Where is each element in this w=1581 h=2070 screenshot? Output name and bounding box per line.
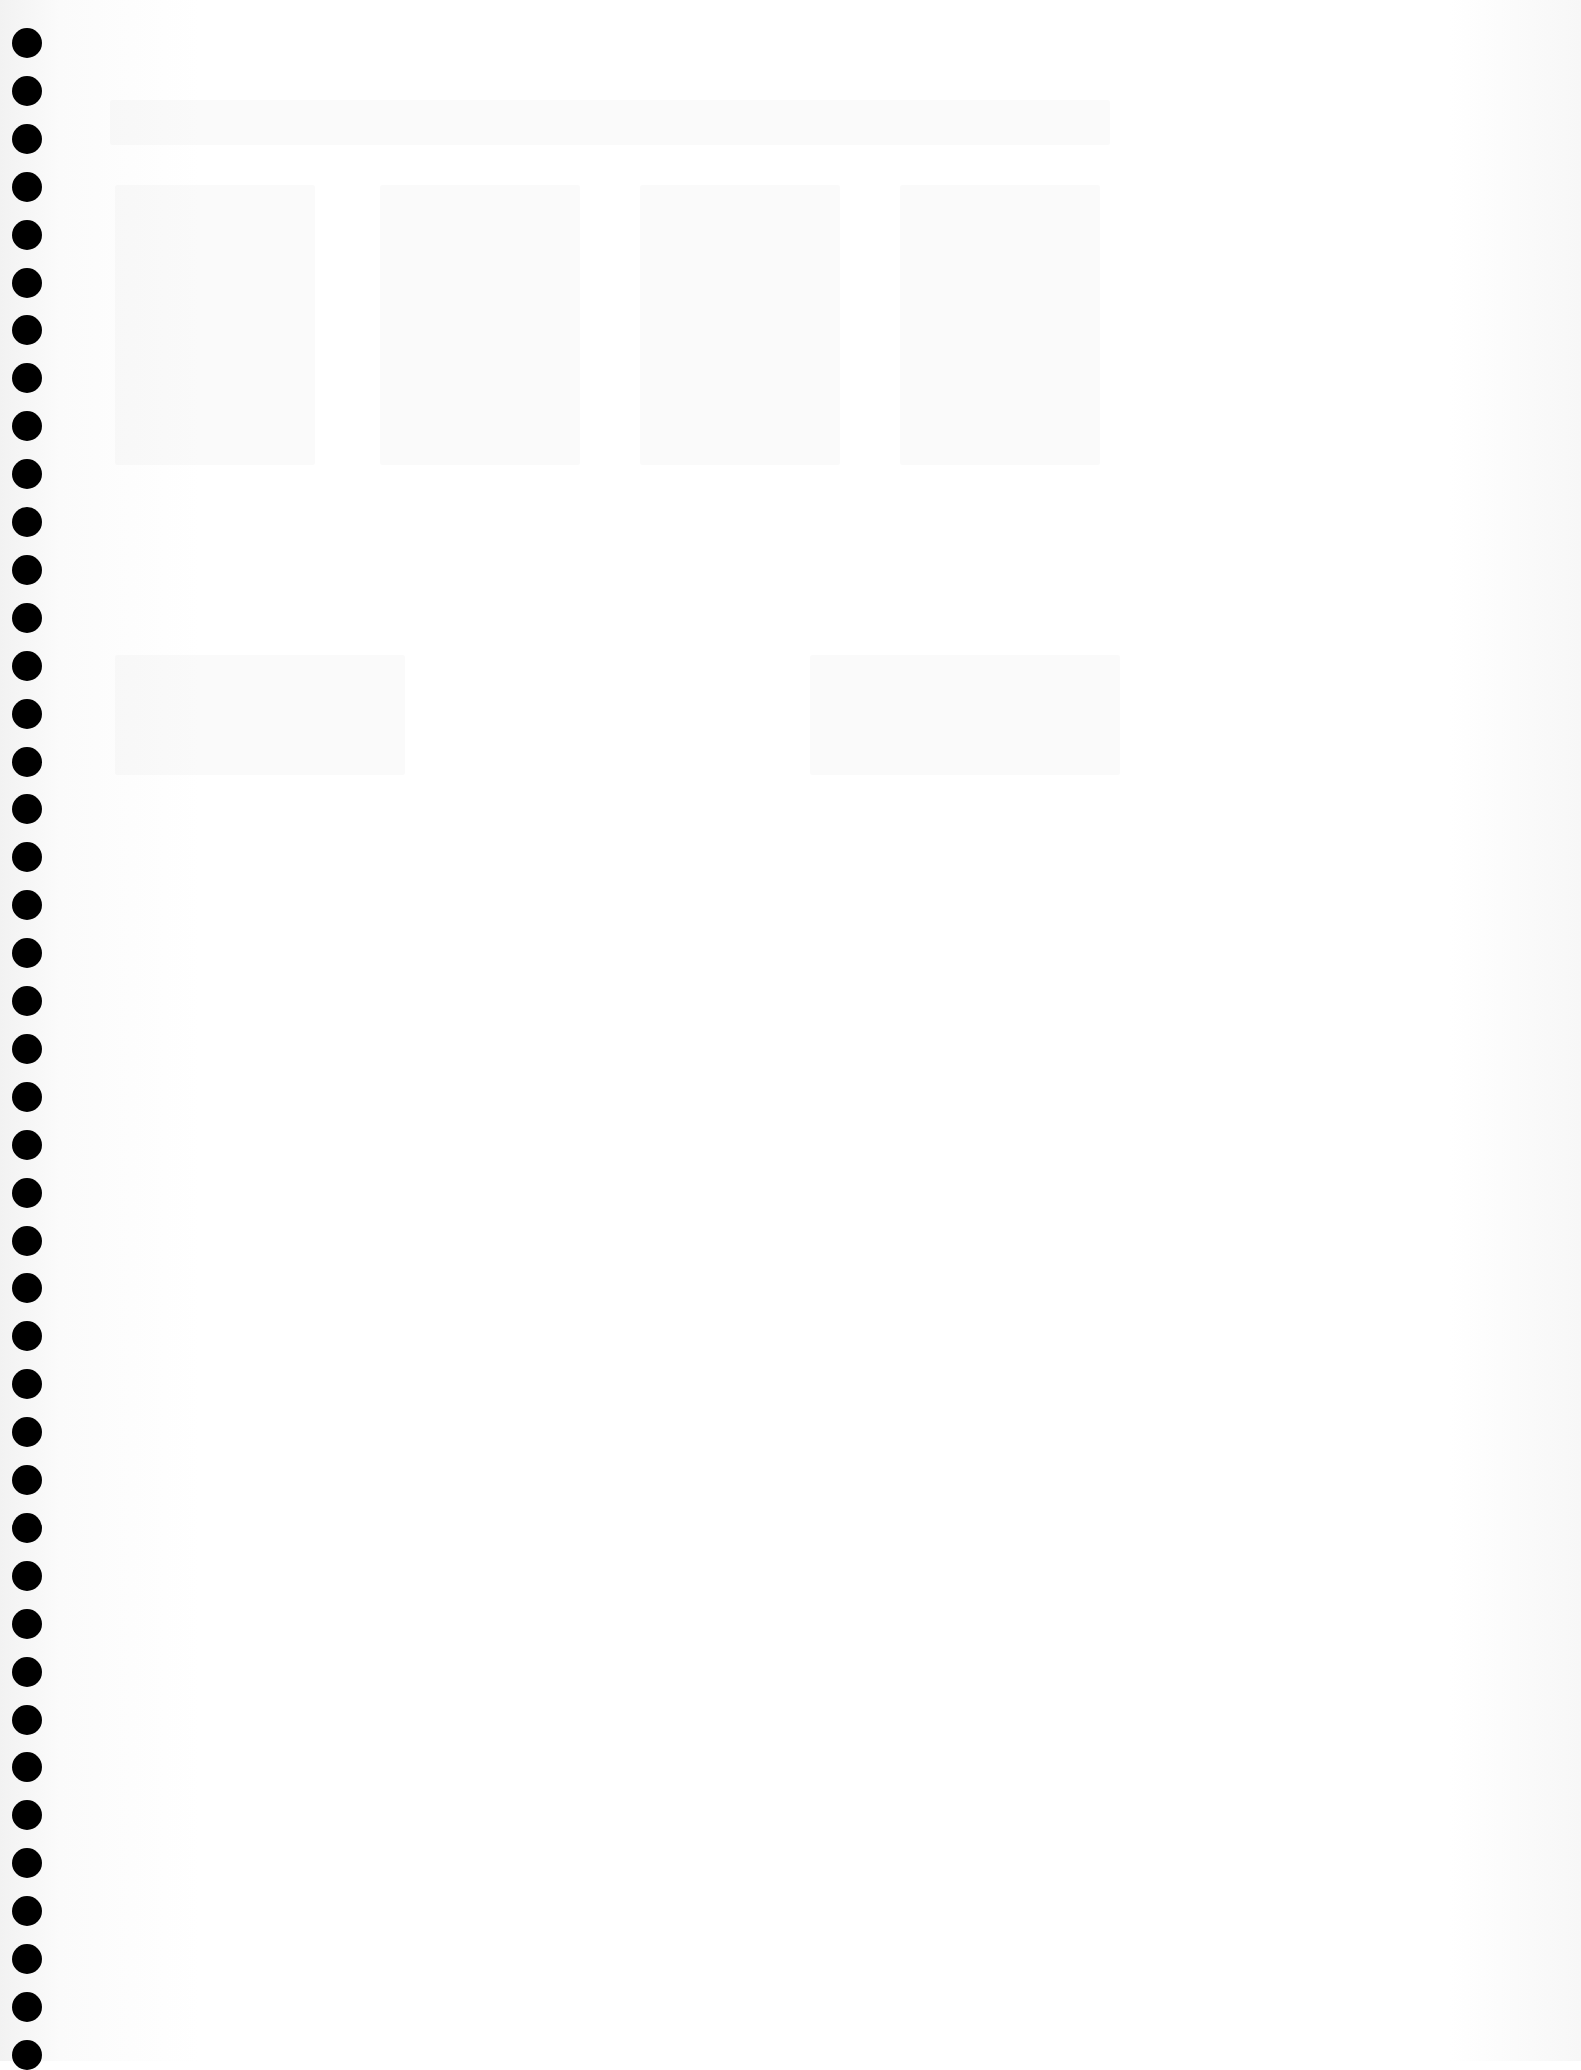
binding-hole bbox=[12, 1465, 42, 1495]
binding-hole bbox=[12, 220, 42, 250]
binding-hole bbox=[12, 172, 42, 202]
binding-hole bbox=[12, 1321, 42, 1351]
bleed-through-text bbox=[900, 185, 1100, 465]
binding-hole bbox=[12, 1705, 42, 1735]
binding-hole bbox=[12, 890, 42, 920]
bleed-through-text bbox=[110, 100, 1110, 145]
binding-hole bbox=[12, 1561, 42, 1591]
bleed-through-text bbox=[380, 185, 580, 465]
binding-hole bbox=[12, 363, 42, 393]
binding-hole bbox=[12, 651, 42, 681]
binding-hole bbox=[12, 1130, 42, 1160]
binding-hole bbox=[12, 747, 42, 777]
bleed-through-text bbox=[810, 655, 1120, 775]
binding-hole bbox=[12, 1800, 42, 1830]
binding-hole bbox=[12, 603, 42, 633]
binding-hole bbox=[12, 1848, 42, 1878]
binding-hole bbox=[12, 986, 42, 1016]
binding-hole bbox=[12, 411, 42, 441]
binding-hole bbox=[12, 28, 42, 58]
binding-hole bbox=[12, 1992, 42, 2022]
binding-hole bbox=[12, 938, 42, 968]
binding-hole bbox=[12, 1752, 42, 1782]
binding-hole bbox=[12, 1082, 42, 1112]
binding-hole bbox=[12, 1273, 42, 1303]
binding-hole bbox=[12, 1226, 42, 1256]
binding-hole bbox=[12, 1034, 42, 1064]
binding-hole bbox=[12, 507, 42, 537]
binding-hole bbox=[12, 76, 42, 106]
spiral-binding bbox=[0, 0, 60, 2061]
binding-hole bbox=[12, 315, 42, 345]
bleed-through-text bbox=[115, 185, 315, 465]
binding-hole bbox=[12, 2040, 42, 2070]
binding-hole bbox=[12, 1944, 42, 1974]
binding-hole bbox=[12, 1896, 42, 1926]
binding-hole bbox=[12, 1513, 42, 1543]
binding-hole bbox=[12, 842, 42, 872]
binding-hole bbox=[12, 1609, 42, 1639]
binding-hole bbox=[12, 1657, 42, 1687]
binding-hole bbox=[12, 268, 42, 298]
bleed-through-text bbox=[640, 185, 840, 465]
binding-hole bbox=[12, 1369, 42, 1399]
binding-hole bbox=[12, 794, 42, 824]
binding-hole bbox=[12, 555, 42, 585]
bleed-through-text bbox=[115, 655, 405, 775]
binding-hole bbox=[12, 124, 42, 154]
binding-hole bbox=[12, 459, 42, 489]
binding-hole bbox=[12, 1178, 42, 1208]
binding-hole bbox=[12, 1417, 42, 1447]
binding-hole bbox=[12, 699, 42, 729]
